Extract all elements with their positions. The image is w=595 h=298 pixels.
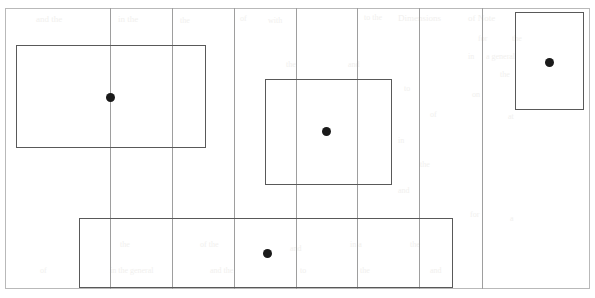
region-bottom-centroid-marker[interactable] [263,249,272,258]
column-guide-line-7 [482,8,483,289]
region-center-centroid-marker[interactable] [322,127,331,136]
diagram-canvas: and thein thetheofwithto theDimensionsof… [0,0,595,298]
region-right-centroid-marker[interactable] [545,58,554,67]
region-left-centroid-marker[interactable] [106,93,115,102]
